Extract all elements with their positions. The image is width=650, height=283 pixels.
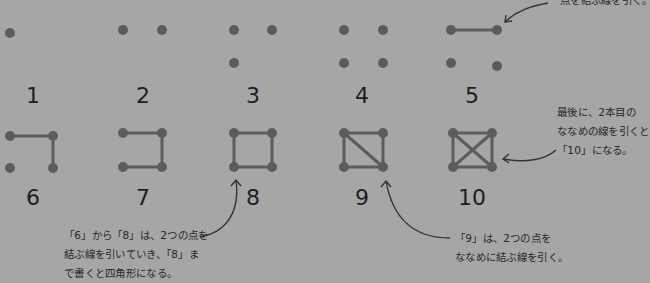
figure-label-10: 10 <box>458 187 486 209</box>
dot <box>267 128 277 138</box>
dot <box>492 61 502 71</box>
figure-label-3: 3 <box>246 85 260 107</box>
dot <box>378 25 388 35</box>
dot <box>48 131 58 141</box>
figure-label-7: 7 <box>136 187 150 209</box>
note-bottom-right: 「9」は、2つの点を ななめに結ぶ線を引く。 <box>455 229 568 267</box>
note-line: ななめに結ぶ線を引く。 <box>455 248 568 267</box>
note-line: 「10」になる。 <box>557 141 650 160</box>
dot <box>339 128 349 138</box>
dot <box>48 163 58 173</box>
dot <box>446 25 456 35</box>
note-line: で書くと四角形になる。 <box>64 264 209 283</box>
dot <box>448 128 458 138</box>
connecting-line <box>344 133 383 167</box>
note-line: 「6」から「8」は、2つの点を <box>64 226 209 245</box>
dot <box>118 162 128 172</box>
figure-label-9: 9 <box>355 187 369 209</box>
arrow-to-figure-10-icon <box>503 150 556 163</box>
dot <box>157 128 167 138</box>
note-line: 結ぶ線を引いていき、「8」ま <box>64 245 209 264</box>
dot <box>487 162 497 172</box>
dot <box>229 162 239 172</box>
dot <box>229 58 239 68</box>
dot <box>487 128 497 138</box>
dot <box>378 58 388 68</box>
dot <box>157 162 167 172</box>
dot <box>267 162 277 172</box>
dot <box>118 25 128 35</box>
figure-label-5: 5 <box>465 85 479 107</box>
dot <box>378 162 388 172</box>
figure-label-8: 8 <box>246 187 260 209</box>
dot <box>267 25 277 35</box>
note-line: ななめの線を引くと <box>557 122 650 141</box>
dot <box>492 25 502 35</box>
note-line: 点を結ぶ線を引く。 <box>560 0 650 10</box>
arrow-to-figure-9-icon <box>381 181 450 238</box>
note-line: 「9」は、2つの点を <box>455 229 568 248</box>
arrow-to-figure-5-icon <box>505 3 548 22</box>
dot <box>448 162 458 172</box>
note-right: 最後に、2本目の ななめの線を引くと 「10」になる。 <box>557 103 650 160</box>
dot <box>229 25 239 35</box>
dot <box>5 28 15 38</box>
dot <box>5 131 15 141</box>
dot <box>5 163 15 173</box>
dot <box>229 128 239 138</box>
figure-label-1: 1 <box>26 85 40 107</box>
dot <box>339 162 349 172</box>
dot <box>157 25 167 35</box>
dot <box>378 128 388 138</box>
figure-label-6: 6 <box>26 187 40 209</box>
figure-label-2: 2 <box>136 85 150 107</box>
dot <box>339 25 349 35</box>
dot <box>118 128 128 138</box>
dot <box>446 58 456 68</box>
figure-label-4: 4 <box>355 85 369 107</box>
note-line: 最後に、2本目の <box>557 103 650 122</box>
note-bottom-left: 「6」から「8」は、2つの点を 結ぶ線を引いていき、「8」ま で書くと四角形にな… <box>64 226 209 283</box>
note-top-right: 点を結ぶ線を引く。 <box>560 0 650 10</box>
dot <box>339 58 349 68</box>
